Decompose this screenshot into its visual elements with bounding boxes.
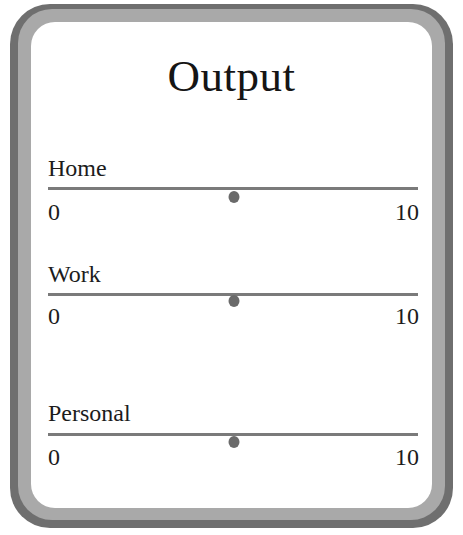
slider-label-personal: Personal [48, 399, 131, 427]
slider-personal: Personal 0 10 [48, 399, 419, 479]
slider-label-home: Home [48, 154, 107, 182]
slider-label-work: Work [48, 260, 101, 288]
slider-max-home: 10 [395, 198, 419, 226]
slider-min-work: 0 [48, 302, 60, 330]
slider-track-home[interactable] [48, 187, 418, 190]
slider-min-personal: 0 [48, 443, 60, 471]
slider-max-work: 10 [395, 302, 419, 330]
slider-max-personal: 10 [395, 443, 419, 471]
slider-home: Home 0 10 [48, 154, 419, 234]
slider-work: Work 0 10 [48, 260, 419, 340]
slider-knob-work[interactable] [228, 295, 239, 307]
slider-min-home: 0 [48, 198, 60, 226]
slider-knob-home[interactable] [228, 191, 239, 203]
slider-knob-personal[interactable] [228, 436, 239, 448]
panel-title: Output [31, 48, 432, 104]
